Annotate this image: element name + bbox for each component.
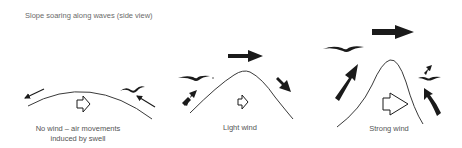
air-movement-arrow-icon bbox=[137, 96, 155, 107]
caption-strong-wind: Strong wind bbox=[354, 124, 424, 134]
wave-line bbox=[28, 92, 152, 119]
bird-icon bbox=[323, 46, 364, 52]
wind-arrow-icon bbox=[276, 77, 291, 92]
wave-line bbox=[337, 60, 423, 127]
caption-no-wind: No wind – air movements induced by swell bbox=[18, 124, 138, 144]
hollow-arrow-icon bbox=[383, 93, 408, 115]
curved-wind-arrow-icon bbox=[424, 88, 441, 116]
bird-icon bbox=[418, 77, 441, 81]
caption-line: Light wind bbox=[205, 123, 275, 133]
bird-icon bbox=[178, 76, 210, 81]
wind-arrow-icon bbox=[335, 64, 358, 101]
caption-light-wind: Light wind bbox=[205, 123, 275, 133]
wind-arrow-icon bbox=[424, 65, 432, 75]
caption-line: induced by swell bbox=[18, 134, 138, 144]
panel-strong-wind bbox=[323, 25, 441, 127]
caption-line: Strong wind bbox=[354, 124, 424, 134]
hollow-arrow-icon bbox=[77, 96, 90, 112]
wind-arrow-icon bbox=[372, 25, 414, 39]
panel-no-wind bbox=[25, 86, 155, 119]
panel-light-wind bbox=[178, 50, 293, 119]
dot bbox=[212, 77, 213, 78]
wind-arrow-icon bbox=[228, 50, 263, 62]
air-movement-arrow-icon bbox=[25, 89, 44, 98]
hollow-arrow-icon bbox=[238, 95, 248, 109]
bird-icon bbox=[120, 86, 145, 92]
caption-line: No wind – air movements bbox=[18, 124, 138, 134]
